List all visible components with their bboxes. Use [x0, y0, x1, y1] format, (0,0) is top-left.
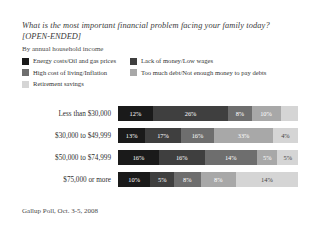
legend-label: Lack of money/Low wages [141, 57, 213, 65]
segment-value-label: 26% [185, 110, 197, 117]
bar-segment: 14% [236, 172, 298, 187]
segment-value-label: 10% [128, 176, 140, 183]
stacked-bar: 10%5%8%8%14% [118, 172, 298, 187]
open-ended-note: [OPEN-ENDED] [22, 31, 81, 42]
legend: Energy costs/Oil and gas prices Lack of … [22, 57, 298, 92]
segment-value-label: 5% [158, 176, 167, 183]
bar-segment: 5% [277, 150, 298, 165]
chart-page: What is the most important financial pro… [0, 0, 312, 231]
legend-item-energy-costs: Energy costs/Oil and gas prices [22, 57, 130, 65]
bar-segment: 12% [118, 106, 153, 121]
legend-row: Energy costs/Oil and gas prices Lack of … [22, 57, 298, 65]
legend-swatch-icon [130, 69, 137, 76]
bar-segment: 4% [273, 128, 298, 143]
bar-segment: 16% [118, 150, 159, 165]
row-label: $50,000 to $74,999 [22, 154, 118, 162]
chart-row: Less than $30,00012%26%8%10% [22, 105, 298, 122]
legend-swatch-icon [22, 58, 29, 65]
segment-value-label: 16% [192, 132, 204, 139]
bar-segment: 5% [150, 172, 174, 187]
segment-value-label: 5% [263, 154, 272, 161]
segment-value-label: 33% [238, 132, 250, 139]
segment-value-label: 16% [133, 154, 145, 161]
bar-segment: 33% [214, 128, 273, 143]
row-label: $75,000 or more [22, 176, 118, 184]
bar-segment [281, 106, 298, 121]
bar-segment: 16% [159, 150, 205, 165]
page-title: What is the most important financial pro… [22, 20, 298, 31]
bar-segment: 8% [228, 106, 251, 121]
stacked-bar-chart: Less than $30,00012%26%8%10%$30,000 to $… [22, 105, 298, 197]
segment-value-label: 16% [176, 154, 188, 161]
source-note: Gallup Poll, Oct. 3-5, 2008 [22, 207, 98, 215]
segment-value-label: 8% [183, 176, 192, 183]
segment-value-label: 5% [283, 154, 292, 161]
legend-label: Energy costs/Oil and gas prices [33, 57, 116, 65]
stacked-bar: 12%26%8%10% [118, 106, 298, 121]
bar-segment: 8% [174, 172, 201, 187]
segment-value-label: 8% [236, 110, 245, 117]
legend-item-too-much-debt: Too much debt/Not enough money to pay de… [130, 69, 298, 77]
legend-swatch-icon [22, 81, 29, 88]
bar-segment: 5% [257, 150, 278, 165]
legend-item-lack-of-money: Lack of money/Low wages [130, 57, 298, 65]
legend-label: Retirement savings [33, 80, 84, 88]
bar-segment: 14% [205, 150, 257, 165]
bar-segment: 10% [252, 106, 281, 121]
segment-value-label: 14% [261, 176, 273, 183]
chart-row: $30,000 to $49,99913%17%16%33%4% [22, 127, 298, 144]
segment-value-label: 17% [157, 132, 169, 139]
row-label: $30,000 to $49,999 [22, 132, 118, 140]
legend-label: Too much debt/Not enough money to pay de… [141, 69, 266, 77]
chart-row: $50,000 to $74,99916%16%14%5%5% [22, 149, 298, 166]
legend-item-retirement-savings: Retirement savings [22, 80, 130, 88]
bar-segment: 16% [181, 128, 214, 143]
bar-segment: 13% [118, 128, 145, 143]
legend-swatch-icon [22, 69, 29, 76]
legend-label: High cost of living/Inflation [33, 69, 107, 77]
segment-value-label: 13% [126, 132, 138, 139]
chart-byline: By annual household income [22, 45, 103, 53]
legend-row: Retirement savings [22, 80, 298, 88]
segment-value-label: 4% [281, 132, 290, 139]
legend-row: High cost of living/Inflation Too much d… [22, 69, 298, 77]
legend-item-cost-of-living: High cost of living/Inflation [22, 69, 130, 77]
segment-value-label: 10% [260, 110, 272, 117]
stacked-bar: 16%16%14%5%5% [118, 150, 298, 165]
bar-segment: 26% [153, 106, 228, 121]
bar-segment: 10% [118, 172, 150, 187]
chart-row: $75,000 or more10%5%8%8%14% [22, 171, 298, 188]
stacked-bar: 13%17%16%33%4% [118, 128, 298, 143]
row-label: Less than $30,000 [22, 110, 118, 118]
segment-value-label: 12% [130, 110, 142, 117]
legend-swatch-icon [130, 58, 137, 65]
bar-segment: 8% [201, 172, 236, 187]
bar-segment: 17% [145, 128, 181, 143]
segment-value-label: 14% [225, 154, 237, 161]
segment-value-label: 8% [214, 176, 223, 183]
